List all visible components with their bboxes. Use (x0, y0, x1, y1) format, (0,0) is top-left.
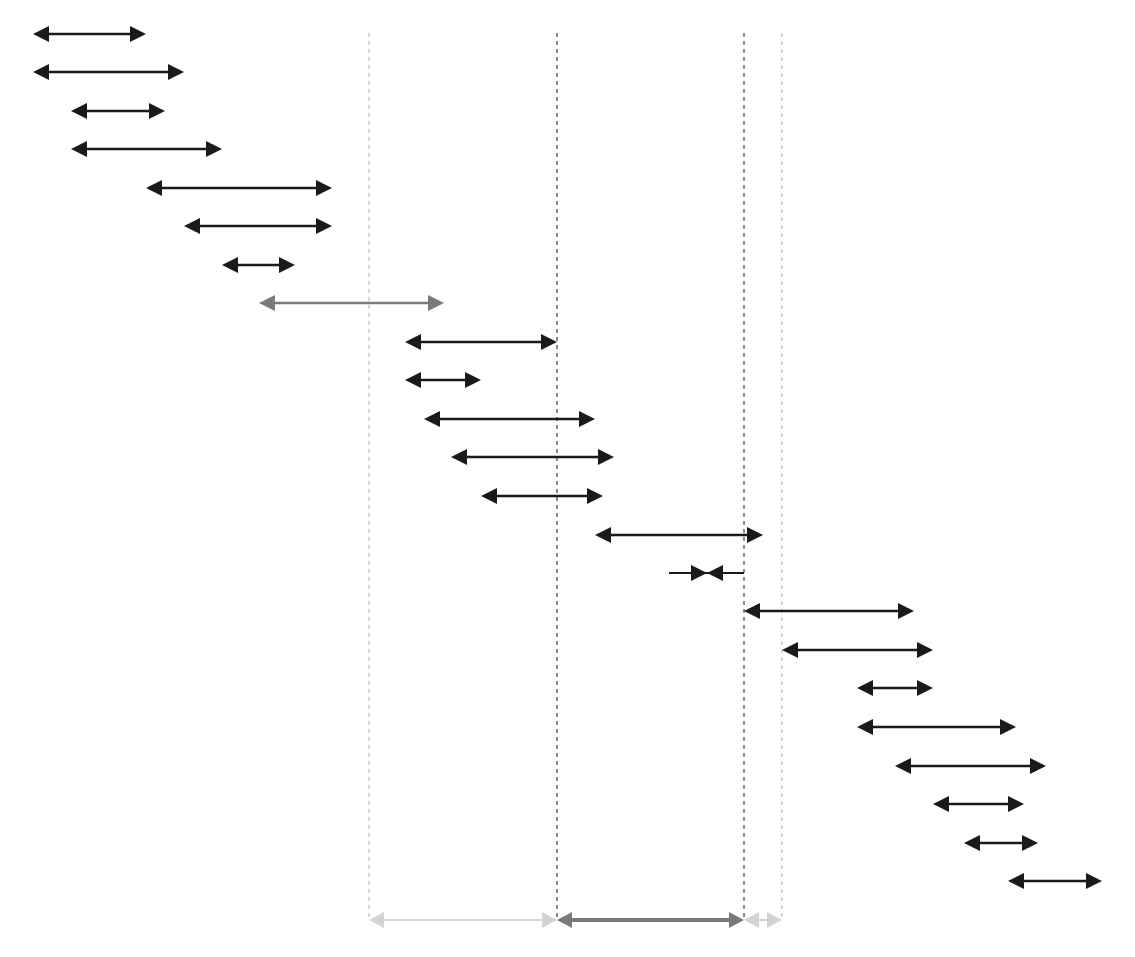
arrow-right-icon (465, 372, 481, 388)
interval-row (933, 796, 1024, 812)
arrow-right-icon (729, 912, 744, 928)
arrow-left-icon (964, 835, 980, 851)
arrow-left-icon (33, 64, 49, 80)
arrow-left-icon (146, 180, 162, 196)
arrow-left-icon (222, 257, 238, 273)
arrow-left-icon (33, 26, 49, 42)
arrow-right-icon (579, 411, 595, 427)
arrow-left-icon (933, 796, 949, 812)
interval-row (405, 334, 557, 350)
arrow-right-icon (747, 527, 763, 543)
interval-row (184, 218, 332, 234)
arrow-left-icon (595, 527, 611, 543)
arrow-right-icon (1000, 719, 1016, 735)
arrow-left-icon (782, 642, 798, 658)
arrow-right-icon (587, 488, 603, 504)
arrow-right-icon (168, 64, 184, 80)
interval-row (451, 449, 614, 465)
summary-segment (744, 912, 782, 928)
interval-row (595, 527, 763, 543)
interval-row (71, 141, 222, 157)
arrow-right-icon (1030, 758, 1046, 774)
arrow-right-icon (542, 912, 557, 928)
interval-row (744, 603, 914, 619)
arrow-left-icon (707, 565, 723, 581)
arrow-left-icon (405, 334, 421, 350)
arrow-left-icon (71, 103, 87, 119)
arrow-left-icon (424, 411, 440, 427)
arrow-right-icon (1086, 873, 1102, 889)
interval-row (146, 180, 332, 196)
arrow-right-icon (917, 642, 933, 658)
arrow-left-icon (857, 719, 873, 735)
arrow-right-icon (1022, 835, 1038, 851)
arrow-right-icon (206, 141, 222, 157)
interval-row (33, 26, 146, 42)
arrow-left-icon (857, 680, 873, 696)
arrow-right-icon (917, 680, 933, 696)
interval-row (222, 257, 295, 273)
arrow-left-icon (451, 449, 467, 465)
interval-row (782, 642, 933, 658)
arrow-left-icon (259, 295, 275, 311)
summary-segment (369, 912, 557, 928)
arrow-left-icon (481, 488, 497, 504)
interval-row (895, 758, 1046, 774)
interval-row (259, 295, 444, 311)
summary-bar (369, 912, 782, 928)
arrow-right-icon (316, 218, 332, 234)
interval-row (1008, 873, 1102, 889)
arrow-left-icon (895, 758, 911, 774)
arrow-left-icon (557, 912, 572, 928)
arrow-right-icon (149, 103, 165, 119)
interval-row (33, 64, 184, 80)
arrow-right-icon (316, 180, 332, 196)
arrow-right-icon (898, 603, 914, 619)
arrow-right-icon (691, 565, 707, 581)
interval-rows (33, 26, 1102, 889)
interval-row (424, 411, 595, 427)
arrow-left-icon (1008, 873, 1024, 889)
summary-segment (557, 912, 744, 928)
interval-row (669, 565, 744, 581)
arrow-left-icon (405, 372, 421, 388)
arrow-right-icon (1008, 796, 1024, 812)
arrow-right-icon (279, 257, 295, 273)
arrow-left-icon (369, 912, 384, 928)
arrow-right-icon (598, 449, 614, 465)
interval-row (481, 488, 603, 504)
arrow-left-icon (744, 912, 759, 928)
interval-row (964, 835, 1038, 851)
arrow-right-icon (428, 295, 444, 311)
interval-row (405, 372, 481, 388)
arrow-right-icon (130, 26, 146, 42)
interval-row (857, 680, 933, 696)
arrow-left-icon (184, 218, 200, 234)
interval-diagram (0, 0, 1135, 957)
arrow-left-icon (744, 603, 760, 619)
guide-lines (369, 33, 782, 920)
interval-row (71, 103, 165, 119)
interval-row (857, 719, 1016, 735)
arrow-right-icon (767, 912, 782, 928)
arrow-left-icon (71, 141, 87, 157)
arrow-right-icon (541, 334, 557, 350)
